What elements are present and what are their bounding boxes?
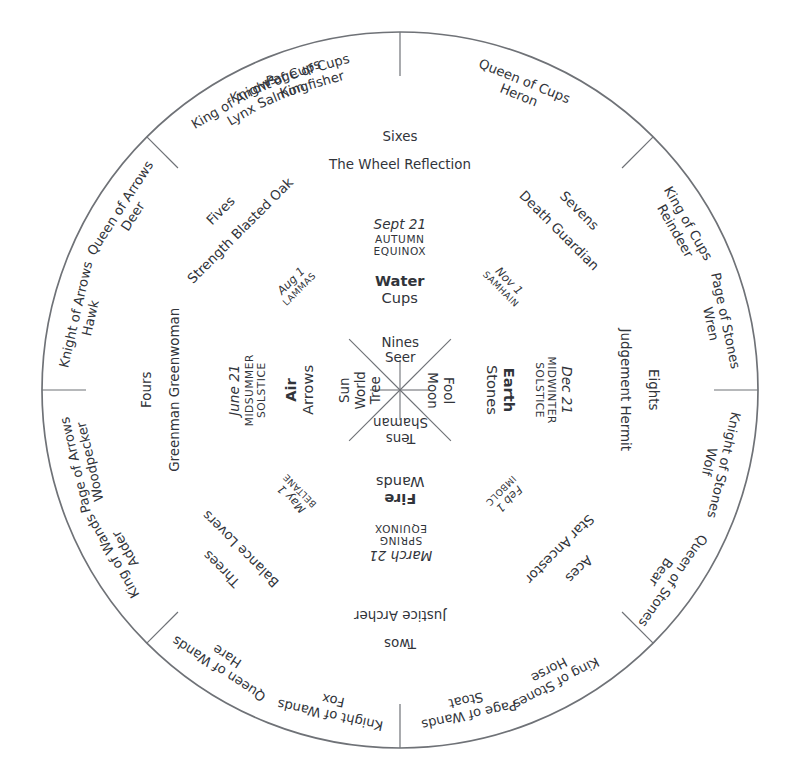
number-card-eights: Eights (645, 369, 661, 410)
element-fire: FireWands (376, 473, 425, 507)
quarter-date-air: June 21MIDSUMMERSOLSTICE (227, 354, 267, 426)
quarter-date-earth: Dec 21MIDWINTERSOLSTICE (533, 356, 573, 423)
quarter-date-water: Sept 21AUTUMNEQUINOX (374, 217, 427, 257)
number-card-twos: Twos (384, 635, 416, 651)
element-water: WaterCups (375, 273, 425, 307)
element-air: AirArrows (283, 365, 317, 415)
inner-card-earth: FoolMoon (425, 372, 456, 408)
major-arcana-justice-archer: Justice Archer (354, 607, 446, 623)
tick-upper-right (622, 137, 653, 168)
number-card-fours: Fours (139, 372, 155, 408)
major-arcana-greenman-greenwoman: Greenman Greenwoman (167, 308, 183, 472)
major-arcana-the-wheel-reflection: The Wheel Reflection (329, 157, 471, 173)
quarter-date-fire: March 21SPRINGEQUINOX (369, 523, 432, 563)
wheel-diagram (0, 0, 799, 783)
inner-card-air: SunWorldTree (337, 371, 384, 409)
major-arcana-judgement-hermit: Judgement Hermit (617, 329, 633, 452)
inner-card-fire: TensShaman (373, 415, 428, 446)
inner-card-water: NinesSeer (382, 335, 419, 366)
element-earth: EarthStones (483, 365, 517, 415)
number-card-sixes: Sixes (383, 129, 418, 145)
